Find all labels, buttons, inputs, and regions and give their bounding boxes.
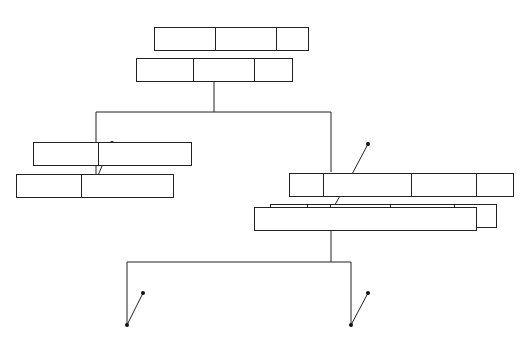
field (82, 175, 173, 197)
field (277, 28, 308, 50)
field (99, 143, 191, 165)
field (155, 28, 216, 50)
field (255, 59, 292, 81)
field (412, 174, 477, 196)
employee-record-donaldson (254, 207, 477, 231)
field (290, 174, 324, 196)
doctor-record-williams (154, 27, 309, 51)
employee-record-thomas (289, 173, 514, 197)
field (34, 143, 99, 165)
clinic-record-clinica (16, 174, 174, 198)
clinic-record-clinicb (33, 142, 192, 166)
field (17, 175, 82, 197)
field (137, 59, 194, 81)
field (324, 174, 412, 196)
doctor-record-jones (136, 58, 293, 82)
field (216, 28, 277, 50)
field (194, 59, 255, 81)
field (477, 174, 513, 196)
